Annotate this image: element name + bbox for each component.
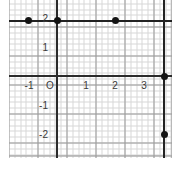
x-tick-label-1: 1 <box>79 81 93 91</box>
data-point <box>25 17 32 24</box>
x-tick-label-3: 3 <box>137 81 151 91</box>
y-tick-label-1: 1 <box>34 43 48 53</box>
data-point <box>161 131 168 138</box>
x-tick-label-minus-1: -1 <box>19 81 39 91</box>
y-tick-label-minus-2: -2 <box>30 130 48 140</box>
y-tick-label-minus-1: -1 <box>30 101 48 111</box>
x-axis <box>9 75 172 77</box>
origin-label: O <box>43 81 57 91</box>
y-tick-label-2: 2 <box>34 14 48 24</box>
data-point <box>112 17 119 24</box>
data-point <box>161 73 168 80</box>
coordinate-graph: 2 1 -1 -2 -1 O 1 2 3 <box>0 0 181 169</box>
x-tick-label-2: 2 <box>108 81 122 91</box>
data-point <box>54 17 61 24</box>
